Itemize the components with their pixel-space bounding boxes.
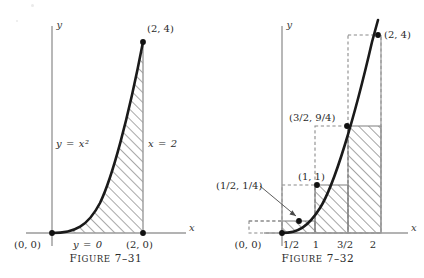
tick-label-half: 1/2 bbox=[283, 239, 299, 250]
label-origin: (0, 0) bbox=[14, 239, 41, 250]
caption-word-rest: IGURE bbox=[289, 254, 322, 264]
label-origin: (0, 0) bbox=[235, 239, 262, 250]
label-vertical-boundary: x = 2 bbox=[148, 138, 178, 149]
scan-speckle bbox=[16, 20, 18, 22]
caption-word-rest: IGURE bbox=[77, 254, 110, 264]
x-axis-label: x bbox=[189, 222, 195, 233]
point-origin-marker bbox=[279, 230, 285, 236]
label-point-three-halves: (3/2, 9/4) bbox=[289, 112, 335, 123]
caption-number: 7–31 bbox=[115, 252, 143, 264]
label-point-2-0: (2, 0) bbox=[126, 239, 153, 250]
tick-label-one: 1 bbox=[313, 239, 319, 250]
y-axis-label: y bbox=[286, 19, 293, 30]
inscribed-rect-3 bbox=[348, 126, 381, 233]
label-curve-equation: y = x² bbox=[55, 138, 90, 149]
figure-7-32: y x 1/2 1 3/2 2 (0, 0) (1/2, 1/4) (1, 1)… bbox=[212, 0, 424, 278]
caption-number: 7–32 bbox=[327, 252, 355, 264]
figure-7-32-canvas: y x 1/2 1 3/2 2 (0, 0) (1/2, 1/4) (1, 1)… bbox=[212, 0, 424, 278]
label-horizontal-boundary: y = 0 bbox=[72, 239, 103, 250]
point-origin-marker bbox=[49, 230, 55, 236]
point-three-halves-marker bbox=[344, 123, 350, 129]
point-2-0-marker bbox=[140, 230, 146, 236]
inscribed-rectangles bbox=[282, 126, 381, 233]
leader-arrow-point-half bbox=[260, 186, 296, 216]
figure-7-31-caption: FIGURE 7–31 bbox=[0, 252, 212, 264]
circumscribed-rect-1 bbox=[249, 221, 282, 233]
scan-speckle bbox=[31, 4, 34, 7]
label-point-2-4: (2, 4) bbox=[384, 29, 411, 40]
x-axis-label: x bbox=[411, 222, 417, 233]
label-point-half-quarter: (1/2, 1/4) bbox=[216, 180, 262, 191]
figure-7-31-canvas: y x (0, 0) (2, 0) (2, 4) y = x² x = 2 y … bbox=[0, 0, 212, 278]
point-half-quarter-marker bbox=[296, 218, 302, 224]
figure-7-31: y x (0, 0) (2, 0) (2, 4) y = x² x = 2 y … bbox=[0, 0, 212, 278]
figure-pair: y x (0, 0) (2, 0) (2, 4) y = x² x = 2 y … bbox=[0, 0, 424, 278]
tick-label-two: 2 bbox=[370, 239, 376, 250]
point-2-4-marker bbox=[140, 39, 146, 45]
point-1-1-marker bbox=[314, 182, 320, 188]
y-axis-label: y bbox=[56, 19, 63, 30]
tick-label-three-halves: 3/2 bbox=[337, 239, 353, 250]
label-point-1-1: (1, 1) bbox=[298, 171, 325, 182]
point-2-4-marker bbox=[375, 32, 381, 38]
label-point-2-4: (2, 4) bbox=[147, 23, 174, 34]
figure-7-32-caption: FIGURE 7–32 bbox=[212, 252, 424, 264]
